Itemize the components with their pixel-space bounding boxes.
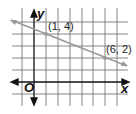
coordinate-plane: (1, 4) (6, 2) y x O — [0, 0, 136, 114]
y-axis-label: y — [36, 6, 45, 21]
point-label-6-2: (6, 2) — [106, 43, 132, 55]
line-arrow-right-icon — [121, 61, 128, 66]
point-1-4 — [44, 32, 48, 36]
point-6-2 — [103, 56, 107, 60]
point-label-1-4: (1, 4) — [48, 20, 74, 32]
x-axis-label: x — [120, 81, 129, 96]
line-arrow-left-icon — [10, 20, 17, 25]
origin-label: O — [24, 80, 34, 95]
